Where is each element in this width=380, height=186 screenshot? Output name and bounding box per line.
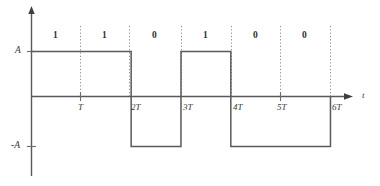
bit-label-3: 1 bbox=[203, 31, 208, 41]
bit-label-1: 1 bbox=[102, 31, 107, 41]
bit-label-2: 0 bbox=[152, 31, 157, 41]
xtick-label-t5: 5T bbox=[277, 103, 287, 112]
xtick-label-t1: T bbox=[78, 103, 83, 112]
xtick-label-t6: 6T bbox=[332, 103, 342, 112]
y-axis-arrow-icon bbox=[28, 6, 34, 14]
waveform-canvas bbox=[0, 0, 380, 186]
amplitude-label-negative: -A bbox=[11, 141, 20, 151]
bit-label-4: 0 bbox=[253, 31, 258, 41]
xtick-label-t4: 4T bbox=[233, 103, 243, 112]
xtick-label-t3: 3T bbox=[183, 103, 193, 112]
bit-label-0: 1 bbox=[53, 31, 58, 41]
x-axis-arrow-icon bbox=[344, 93, 353, 100]
signal-waveform bbox=[32, 52, 331, 147]
bit-label-5: 0 bbox=[302, 31, 307, 41]
amplitude-label-positive: A bbox=[15, 46, 21, 56]
xtick-label-t2: 2T bbox=[131, 103, 141, 112]
x-axis-label: t bbox=[362, 91, 365, 100]
waveform-figure: 1 1 0 1 0 0 A -A T 2T 3T 4T 5T 6T t bbox=[0, 0, 380, 186]
